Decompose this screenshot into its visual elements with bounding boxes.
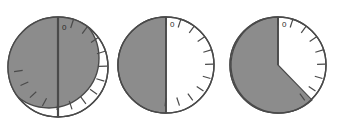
- dial-1-svg: 0: [0, 0, 118, 130]
- dial-2-zero-label: 0: [170, 20, 175, 29]
- dial-1: 0: [0, 0, 118, 130]
- dial-2-shaded-region: [118, 17, 166, 113]
- dial-3: 0: [224, 0, 342, 130]
- dial-2: 0: [112, 0, 224, 130]
- dial-2-svg: 0: [112, 0, 224, 130]
- dial-1-zero-label: 0: [62, 23, 67, 32]
- dial-3-svg: 0: [224, 0, 342, 130]
- dial-3-zero-label: 0: [282, 20, 287, 29]
- figure-root: 0: [0, 0, 342, 130]
